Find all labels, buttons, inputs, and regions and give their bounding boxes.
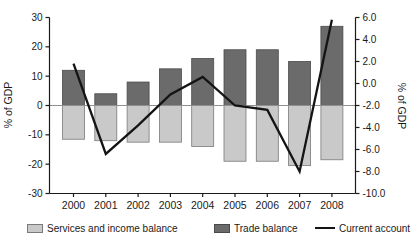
x-tick-label-2005: 2005 bbox=[223, 199, 247, 211]
svg-text:-30: -30 bbox=[28, 188, 43, 199]
bar-trade-2008 bbox=[321, 26, 343, 105]
svg-text:30: 30 bbox=[31, 12, 43, 23]
x-tick-label-2004: 2004 bbox=[191, 199, 215, 211]
svg-text:10: 10 bbox=[31, 71, 43, 82]
svg-text:-6.0: -6.0 bbox=[363, 144, 381, 155]
left-axis-ticks: 3020100-10-20-30 bbox=[28, 12, 49, 199]
legend-item-current-account: Current account bbox=[315, 220, 410, 236]
legend-item-trade: Trade balance bbox=[214, 220, 298, 236]
current-account-line-icon bbox=[315, 227, 335, 229]
chart: 3020100-10-20-306.04.02.00.0-2.0-4.0-6.0… bbox=[0, 0, 412, 245]
bars-group bbox=[63, 26, 343, 165]
svg-text:0: 0 bbox=[37, 100, 43, 111]
right-axis-title: % of GDP bbox=[396, 83, 408, 130]
bar-trade-2006 bbox=[256, 50, 278, 106]
x-tick-label-2003: 2003 bbox=[159, 199, 183, 211]
x-tick-label-2008: 2008 bbox=[320, 199, 344, 211]
bar-services-2005 bbox=[224, 106, 246, 162]
svg-text:-10.0: -10.0 bbox=[363, 188, 386, 199]
bar-trade-2005 bbox=[224, 50, 246, 106]
legend-label-current-account: Current account bbox=[339, 223, 410, 234]
left-axis-title: % of GDP bbox=[2, 82, 14, 129]
legend: Services and income balance Trade balanc… bbox=[0, 220, 412, 240]
services-swatch-icon bbox=[27, 224, 43, 233]
x-tick-label-2001: 2001 bbox=[94, 199, 118, 211]
bar-trade-2002 bbox=[127, 82, 149, 105]
right-axis-ticks: 6.04.02.00.0-2.0-4.0-6.0-8.0-10.0 bbox=[356, 12, 386, 199]
svg-text:6.0: 6.0 bbox=[363, 12, 377, 23]
bar-services-2003 bbox=[159, 106, 181, 143]
x-tick-label-2000: 2000 bbox=[62, 199, 86, 211]
chart-canvas: 3020100-10-20-306.04.02.00.0-2.0-4.0-6.0… bbox=[0, 0, 412, 245]
legend-label-services: Services and income balance bbox=[47, 223, 178, 234]
svg-text:0.0: 0.0 bbox=[363, 78, 377, 89]
svg-text:-20: -20 bbox=[28, 159, 43, 170]
legend-item-services: Services and income balance bbox=[27, 220, 178, 236]
svg-text:20: 20 bbox=[31, 41, 43, 52]
bar-services-2000 bbox=[63, 106, 85, 140]
x-tick-label-2007: 2007 bbox=[288, 199, 312, 211]
bar-trade-2001 bbox=[95, 94, 117, 106]
bar-services-2008 bbox=[321, 106, 343, 160]
svg-text:2.0: 2.0 bbox=[363, 56, 377, 67]
x-tick-label-2002: 2002 bbox=[126, 199, 150, 211]
x-tick-label-2006: 2006 bbox=[256, 199, 280, 211]
svg-text:-10: -10 bbox=[28, 129, 43, 140]
bar-services-2004 bbox=[192, 106, 214, 147]
svg-text:-2.0: -2.0 bbox=[363, 100, 381, 111]
svg-text:-4.0: -4.0 bbox=[363, 122, 381, 133]
trade-swatch-icon bbox=[214, 224, 230, 233]
svg-text:-8.0: -8.0 bbox=[363, 166, 381, 177]
x-axis-ticks: 200020012002200320042005200620072008 bbox=[62, 194, 344, 211]
legend-label-trade: Trade balance bbox=[234, 223, 298, 234]
bar-trade-2007 bbox=[289, 62, 311, 106]
bar-trade-2003 bbox=[159, 69, 181, 106]
bar-services-2006 bbox=[256, 106, 278, 162]
svg-text:4.0: 4.0 bbox=[363, 34, 377, 45]
